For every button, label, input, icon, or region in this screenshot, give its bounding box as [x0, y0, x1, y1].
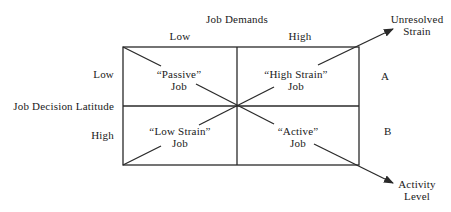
quadrant-active-job: “Active” Job: [278, 125, 319, 149]
outcome-unresolved-line2: Strain: [391, 25, 444, 37]
quadrant-high-strain-job: “High Strain” Job: [264, 68, 327, 92]
quadrant-passive-line1: “Passive”: [157, 68, 202, 80]
outcome-activity-line1: Activity: [398, 178, 436, 190]
quadrant-passive-job: “Passive” Job: [157, 68, 202, 92]
diagonal-b-segment-1: [123, 47, 161, 66]
y-axis-low-label: Low: [93, 68, 114, 80]
outcome-activity-level: Activity Level: [398, 178, 436, 202]
diagonal-b-label: B: [384, 125, 392, 137]
x-axis-high-label: High: [289, 30, 312, 42]
quadrant-low-strain-line1: “Low Strain”: [149, 125, 210, 137]
quadrant-active-line1: “Active”: [278, 125, 319, 137]
y-axis-high-label: High: [91, 129, 114, 141]
quadrant-passive-line2: Job: [157, 80, 202, 92]
outcome-activity-line2: Level: [398, 190, 436, 202]
quadrant-low-strain-job: “Low Strain” Job: [149, 125, 210, 149]
quadrant-high-strain-line1: “High Strain”: [264, 68, 327, 80]
diagonal-a-label: A: [381, 70, 389, 82]
quadrant-active-line2: Job: [278, 137, 319, 149]
outcome-unresolved-strain: Unresolved Strain: [391, 13, 444, 37]
quadrant-low-strain-line2: Job: [149, 137, 210, 149]
diagonal-b-segment-2: [196, 84, 274, 124]
y-axis-title: Job Decision Latitude: [13, 100, 114, 112]
x-axis-title: Job Demands: [206, 13, 268, 25]
diagonal-b-arrow: [314, 144, 393, 183]
x-axis-low-label: Low: [170, 30, 191, 42]
outcome-unresolved-line1: Unresolved: [391, 13, 444, 25]
quadrant-high-strain-line2: Job: [264, 80, 327, 92]
